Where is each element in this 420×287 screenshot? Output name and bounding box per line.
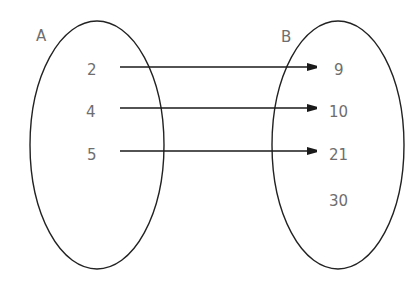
set-b-element: 9 xyxy=(334,61,344,79)
set-a-ellipse xyxy=(30,21,164,269)
set-b-element: 30 xyxy=(329,192,348,210)
mapping-diagram: A 2 4 5 B 9 10 21 30 xyxy=(0,0,420,287)
set-b-element: 21 xyxy=(329,146,348,164)
set-a-element: 4 xyxy=(86,103,96,121)
set-b-element: 10 xyxy=(329,103,348,121)
set-a: A 2 4 5 xyxy=(30,21,164,269)
set-a-element: 5 xyxy=(87,146,97,164)
set-a-element: 2 xyxy=(87,61,97,79)
mapping-arrows xyxy=(120,67,316,151)
set-b-ellipse xyxy=(272,21,404,269)
set-b-label: B xyxy=(281,28,291,46)
set-a-label: A xyxy=(36,27,47,45)
set-b: B 9 10 21 30 xyxy=(272,21,404,269)
